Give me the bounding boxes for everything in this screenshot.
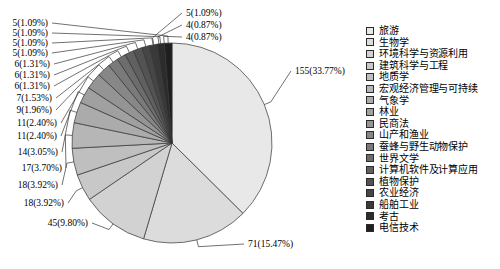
legend-swatch-icon — [366, 189, 374, 197]
legend-swatch-icon — [366, 85, 374, 93]
pie-slices-group — [72, 43, 272, 243]
data-label: 155(33.77%) — [295, 66, 345, 76]
leader-line — [52, 38, 153, 45]
legend-item[interactable]: 考古 — [366, 211, 500, 223]
leader-line — [264, 71, 291, 105]
legend-swatch-icon — [366, 50, 374, 58]
legend-item-label: 民商法 — [379, 118, 409, 130]
legend-item[interactable]: 气象学 — [366, 95, 500, 107]
legend-swatch-icon — [366, 108, 374, 116]
leader-line — [52, 40, 146, 53]
legend-item[interactable]: 生物学 — [366, 37, 500, 49]
legend-item-label: 地质学 — [379, 71, 409, 83]
leader-line — [68, 188, 83, 203]
legend-swatch-icon — [366, 224, 374, 232]
legend-item-label: 建筑科学与工程 — [379, 60, 448, 72]
data-label: 4(0.87%) — [186, 32, 222, 42]
data-label: 45(9.80%) — [48, 218, 88, 228]
data-label: 6(1.31%) — [14, 59, 50, 69]
legend-item[interactable]: 旅游 — [366, 25, 500, 37]
data-label: 5(1.09%) — [12, 48, 48, 58]
data-label: 5(1.09%) — [12, 18, 48, 28]
legend-item[interactable]: 电信技术 — [366, 222, 500, 234]
legend-item[interactable]: 农业经济 — [366, 187, 500, 199]
legend-swatch-icon — [366, 201, 374, 209]
legend-item-label: 旅游 — [379, 25, 399, 37]
legend-item-label: 环境科学与资源利用 — [379, 48, 468, 60]
pie-chart-figure: 155(33.77%)71(15.47%)45(9.80%)18(3.92%)1… — [0, 0, 500, 269]
legend-swatch-icon — [366, 38, 374, 46]
data-label: 14(3.05%) — [18, 147, 58, 157]
legend-item[interactable]: 地质学 — [366, 71, 500, 83]
legend-swatch-icon — [366, 27, 374, 35]
legend-item-label: 山产和渔业 — [379, 129, 429, 141]
legend-item[interactable]: 世界文学 — [366, 153, 500, 165]
leader-line — [153, 13, 183, 45]
legend-swatch-icon — [366, 143, 374, 151]
data-label: 5(1.09%) — [12, 28, 48, 38]
data-label: 5(1.09%) — [186, 8, 222, 18]
legend-item-label: 植物保护 — [379, 176, 419, 188]
leader-line — [92, 223, 113, 230]
legend-item-label: 林业 — [379, 106, 399, 118]
data-label: 18(3.92%) — [24, 198, 64, 208]
legend-item[interactable]: 计算机软件及计算应用 — [366, 164, 500, 176]
legend-swatch-icon — [366, 62, 374, 70]
legend-item-label: 农业经济 — [379, 187, 419, 199]
legend-item-label: 计算机软件及计算应用 — [379, 164, 478, 176]
leader-line — [164, 36, 182, 43]
data-label: 18(3.92%) — [18, 180, 58, 190]
legend-swatch-icon — [366, 96, 374, 104]
data-label: 7(1.53%) — [16, 93, 52, 103]
legend-item-label: 生物学 — [379, 37, 409, 49]
legend-item-label: 船舶工业 — [379, 199, 419, 211]
legend-swatch-icon — [366, 120, 374, 128]
legend-swatch-icon — [366, 73, 374, 81]
legend-item[interactable]: 林业 — [366, 106, 500, 118]
legend-item[interactable]: 蚕蜂与野生动物保护 — [366, 141, 500, 153]
legend-item[interactable]: 船舶工业 — [366, 199, 500, 211]
legend-item-label: 宏观经济管理与可持续 — [379, 83, 478, 95]
legend-swatch-icon — [366, 212, 374, 220]
legend-swatch-icon — [366, 178, 374, 186]
legend-item[interactable]: 宏观经济管理与可持续 — [366, 83, 500, 95]
data-label: 5(1.09%) — [12, 38, 48, 48]
data-label: 6(1.31%) — [14, 81, 50, 91]
data-label: 11(2.40%) — [17, 118, 57, 128]
legend-item[interactable]: 山产和渔业 — [366, 129, 500, 141]
legend-item[interactable]: 民商法 — [366, 118, 500, 130]
data-label: 11(2.40%) — [17, 131, 57, 141]
legend-item[interactable]: 环境科学与资源利用 — [366, 48, 500, 60]
legend-item-label: 世界文学 — [379, 153, 419, 165]
legend-swatch-icon — [366, 131, 374, 139]
data-label: 6(1.31%) — [14, 70, 50, 80]
legend-item[interactable]: 植物保护 — [366, 176, 500, 188]
data-label: 4(0.87%) — [186, 20, 222, 30]
data-label: 17(3.70%) — [22, 163, 62, 173]
leader-line — [62, 162, 74, 185]
data-label: 9(1.96%) — [16, 105, 52, 115]
chart-legend: 旅游生物学环境科学与资源利用建筑科学与工程地质学宏观经济管理与可持续气象学林业民… — [366, 25, 500, 234]
legend-item-label: 考古 — [379, 211, 399, 223]
legend-swatch-icon — [366, 166, 374, 174]
legend-item-label: 气象学 — [379, 95, 409, 107]
legend-item-label: 蚕蜂与野生动物保护 — [379, 141, 468, 153]
leader-line — [197, 240, 244, 247]
data-label: 71(15.47%) — [248, 239, 293, 249]
legend-swatch-icon — [366, 154, 374, 162]
leader-line — [158, 25, 182, 44]
legend-item-label: 电信技术 — [379, 222, 419, 234]
legend-item[interactable]: 建筑科学与工程 — [366, 60, 500, 72]
